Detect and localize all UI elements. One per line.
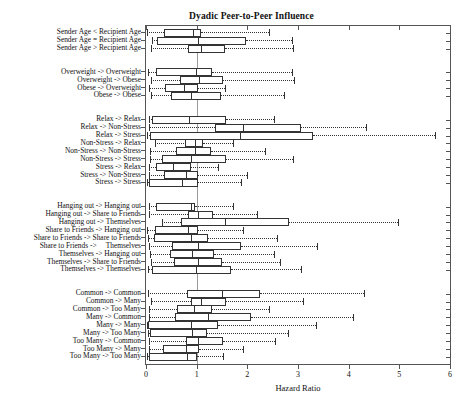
whisker-upper [260, 293, 364, 294]
whisker-lower [149, 349, 163, 350]
whisker-lower [151, 95, 171, 96]
x-tick-top [450, 26, 451, 30]
whisker-upper [213, 214, 258, 215]
whisker-upper [301, 127, 367, 128]
whisker-lower [149, 175, 164, 176]
whisker-lower [148, 293, 187, 294]
whisker-upper [198, 230, 244, 231]
chart-title: Dyadic Peer-to-Peer Influence [0, 11, 463, 21]
whisker-upper [203, 143, 233, 144]
whisker-upper [207, 333, 288, 334]
whisker-lower [149, 246, 173, 247]
y-axis-label: Stress -> Stress [0, 177, 141, 186]
whisker-upper [198, 182, 242, 183]
x-tick [197, 365, 198, 369]
x-tick-label: 4 [334, 370, 364, 379]
y-axis-label: Themselves -> Themselves [0, 264, 141, 273]
y-axis-label: Obese -> Obese [0, 90, 141, 99]
whisker-upper [231, 269, 300, 270]
whisker-lower [149, 167, 156, 168]
whisker-cap-high [223, 353, 224, 360]
x-tick [298, 365, 299, 369]
x-tick-label: 0 [131, 370, 161, 379]
x-tick [247, 365, 248, 369]
x-axis-title: Hazard Ratio [145, 383, 451, 393]
whisker-lower [149, 206, 157, 207]
whisker-lower [155, 143, 184, 144]
box-plot-row [146, 44, 450, 53]
box-plot-row [146, 265, 450, 274]
whisker-upper [198, 175, 248, 176]
whisker-upper [208, 238, 277, 239]
whisker-lower [148, 72, 157, 73]
whisker-cap-high [293, 45, 294, 52]
whisker-lower [149, 341, 186, 342]
whisker-lower [149, 88, 166, 89]
whisker-cap-low [151, 45, 152, 52]
whisker-cap-high [241, 179, 242, 186]
whisker-lower [149, 317, 176, 318]
whisker-lower [150, 159, 162, 160]
whisker-upper [214, 254, 273, 255]
whisker-upper [212, 72, 292, 73]
whisker-lower [150, 151, 176, 152]
box-iqr [149, 353, 197, 361]
box-iqr [171, 92, 221, 100]
whisker-upper [199, 349, 243, 350]
median-line [187, 353, 188, 361]
x-tick [349, 365, 350, 369]
whisker-lower [149, 127, 215, 128]
whisker-upper [241, 246, 317, 247]
whisker-upper [201, 32, 269, 33]
whisker-upper [313, 135, 435, 136]
whisker-lower [151, 301, 191, 302]
whisker-cap-low [148, 266, 149, 273]
whisker-upper [246, 40, 292, 41]
whisker-upper [226, 159, 293, 160]
whisker-upper [225, 48, 293, 49]
x-tick-label: 6 [435, 370, 463, 379]
whisker-upper [226, 119, 274, 120]
whisker-lower [147, 230, 155, 231]
x-tick-label: 5 [384, 370, 414, 379]
whisker-upper [197, 356, 223, 357]
box-plot-row [146, 352, 450, 361]
median-line [201, 45, 202, 53]
y-axis-label: Too Many -> Too Many [0, 351, 141, 360]
whisker-upper [226, 301, 303, 302]
whisker-lower [162, 222, 181, 223]
x-tick-label: 3 [283, 370, 313, 379]
whisker-cap-low [151, 92, 152, 99]
whisker-lower [151, 48, 187, 49]
whisker-upper [222, 262, 280, 263]
x-tick-label: 1 [182, 370, 212, 379]
y-axis-label: Sender Age > Recipient Age [0, 43, 141, 52]
whisker-upper [221, 95, 284, 96]
whisker-upper [251, 317, 352, 318]
whisker-lower [147, 32, 164, 33]
median-line [191, 92, 192, 100]
whisker-cap-high [301, 266, 302, 273]
box-iqr [152, 266, 231, 274]
chart-container: Dyadic Peer-to-Peer Influence Sender Age… [0, 0, 463, 405]
whisker-upper [212, 309, 269, 310]
whisker-upper [195, 206, 233, 207]
whisker-upper [218, 325, 316, 326]
whisker-lower [151, 262, 174, 263]
whisker-upper [289, 222, 398, 223]
whisker-lower [150, 254, 170, 255]
box-plot-row [146, 91, 450, 100]
whisker-lower [149, 214, 188, 215]
box-plot-row [146, 178, 450, 187]
whisker-lower [151, 80, 180, 81]
y-axis-labels: Sender Age < Recipient AgeSender Age = R… [0, 25, 141, 365]
whisker-upper [223, 341, 275, 342]
whisker-upper [191, 167, 218, 168]
x-tick [450, 365, 451, 369]
plot-area [145, 25, 451, 365]
box-iqr [188, 45, 225, 53]
whisker-cap-high [284, 92, 285, 99]
whisker-upper [211, 151, 265, 152]
whisker-lower [149, 309, 178, 310]
whisker-upper [223, 80, 294, 81]
